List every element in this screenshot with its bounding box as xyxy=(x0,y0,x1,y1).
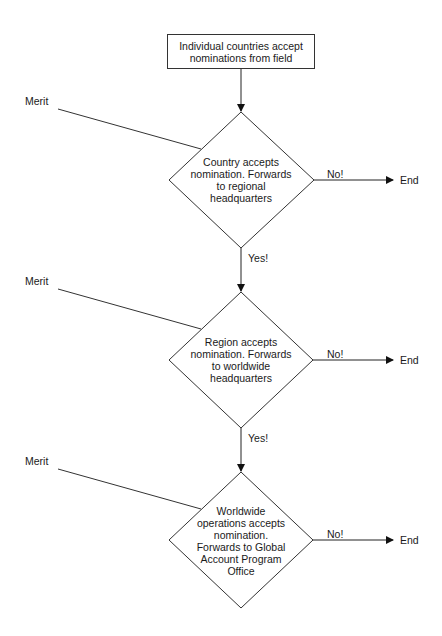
yes-label-2: Yes! xyxy=(248,432,268,444)
merit-input-label-3: Merit xyxy=(25,455,48,467)
no-label-1: No! xyxy=(327,168,343,180)
no-label-2: No! xyxy=(327,348,343,360)
yes-label-1: Yes! xyxy=(248,252,268,264)
end-label-1: End xyxy=(400,174,419,186)
merit-input-label-2: Merit xyxy=(25,275,48,287)
decision-1-label: Country accepts nomination. Forwards to … xyxy=(186,156,296,204)
end-label-2: End xyxy=(400,354,419,366)
start-label: Individual countries accept nominations … xyxy=(168,40,314,64)
decision-2-label: Region accepts nomination. Forwards to w… xyxy=(186,336,296,384)
start-box: Individual countries accept nominations … xyxy=(167,34,315,69)
end-label-3: End xyxy=(400,534,419,546)
merit-input-label-1: Merit xyxy=(25,95,48,107)
no-label-3: No! xyxy=(327,528,343,540)
decision-3-label: Worldwide operations accepts nomination.… xyxy=(191,505,291,577)
